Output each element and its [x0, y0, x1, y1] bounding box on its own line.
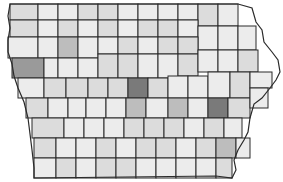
county-region	[158, 20, 178, 37]
county-region	[138, 54, 158, 78]
county-region	[98, 4, 118, 20]
county-region	[116, 138, 136, 158]
county-region	[108, 78, 128, 98]
county-region	[10, 4, 38, 20]
iowa-county-map	[0, 0, 283, 182]
county-region	[64, 118, 84, 138]
county-region	[158, 37, 178, 54]
county-region	[176, 158, 196, 178]
county-region	[34, 138, 56, 158]
county-region	[96, 158, 116, 178]
county-region	[44, 78, 66, 98]
county-region	[250, 88, 268, 108]
county-region	[76, 158, 96, 178]
county-region	[136, 138, 156, 158]
county-region	[58, 37, 78, 58]
county-region	[224, 118, 242, 138]
county-region	[208, 72, 230, 98]
county-region	[218, 26, 238, 50]
county-region	[58, 20, 78, 37]
county-region	[32, 118, 64, 138]
county-region	[230, 72, 250, 98]
county-region	[98, 20, 118, 37]
county-region	[38, 37, 58, 58]
county-region	[148, 78, 168, 98]
county-region	[178, 20, 198, 37]
county-region	[38, 20, 58, 37]
county-region	[84, 118, 104, 138]
county-region	[78, 4, 98, 20]
county-region	[118, 54, 138, 78]
county-region	[164, 118, 184, 138]
county-region	[48, 98, 68, 118]
county-region	[26, 98, 48, 118]
county-region	[188, 98, 208, 118]
county-region	[184, 118, 204, 138]
county-region	[78, 58, 98, 78]
county-region	[12, 58, 44, 78]
county-region	[204, 118, 224, 138]
county-region	[238, 26, 256, 50]
county-region	[78, 37, 98, 58]
county-region	[156, 158, 176, 178]
county-region	[18, 78, 44, 98]
county-region	[208, 98, 228, 118]
county-region	[66, 78, 88, 98]
county-region	[198, 26, 218, 50]
county-region	[116, 158, 136, 178]
county-region	[10, 20, 38, 37]
county-region	[196, 138, 216, 158]
county-region	[138, 4, 158, 20]
county-region	[136, 158, 156, 178]
county-region	[144, 118, 164, 138]
county-region	[198, 4, 218, 26]
county-region	[216, 138, 236, 158]
county-region	[178, 37, 198, 54]
county-region	[238, 50, 258, 72]
county-region	[96, 138, 116, 158]
county-region	[38, 4, 58, 20]
county-region	[218, 50, 238, 72]
county-region	[98, 54, 118, 78]
county-region	[8, 37, 38, 58]
county-region	[58, 58, 78, 78]
county-region	[156, 138, 176, 158]
county-region	[188, 76, 208, 98]
county-region	[198, 50, 218, 72]
county-region	[138, 20, 158, 37]
county-region	[218, 4, 238, 26]
county-region	[98, 37, 118, 54]
county-region	[86, 98, 106, 118]
county-region	[216, 158, 232, 178]
county-region	[158, 4, 178, 20]
county-region	[118, 4, 138, 20]
county-region	[118, 37, 138, 54]
county-region	[146, 98, 168, 118]
county-region	[178, 4, 198, 20]
county-region	[158, 54, 178, 78]
county-region	[228, 98, 250, 118]
county-region	[250, 72, 272, 88]
county-region	[138, 37, 158, 54]
county-region	[126, 98, 146, 118]
county-region	[68, 98, 86, 118]
county-region	[168, 76, 188, 98]
county-region	[104, 118, 124, 138]
county-region	[56, 138, 76, 158]
county-region	[128, 78, 148, 98]
county-region	[106, 98, 126, 118]
county-region	[88, 78, 108, 98]
county-region	[56, 158, 76, 178]
county-region	[178, 54, 198, 76]
county-region	[196, 158, 216, 178]
county-region	[176, 138, 196, 158]
county-region	[44, 58, 58, 78]
county-region	[168, 98, 188, 118]
county-region	[34, 158, 56, 178]
county-region	[118, 20, 138, 37]
county-layer	[8, 4, 272, 178]
county-region	[58, 4, 78, 20]
county-region	[78, 20, 98, 37]
county-region	[76, 138, 96, 158]
county-region	[124, 118, 144, 138]
